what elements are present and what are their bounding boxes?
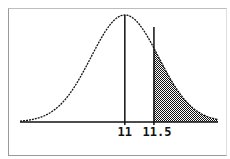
tick-label-11: 11	[118, 125, 132, 139]
tick-label-11-5: 11.5	[142, 125, 171, 139]
normal-distribution-chart: 11 11.5	[0, 0, 230, 159]
shaded-tail-area	[154, 48, 218, 122]
